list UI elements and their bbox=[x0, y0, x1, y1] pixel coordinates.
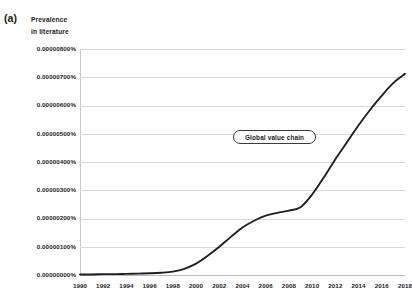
y-tick-label-7: 0.00000700% bbox=[37, 74, 76, 80]
x-tick-label-3: 1996 bbox=[143, 283, 157, 289]
x-tick-label-2: 1994 bbox=[119, 283, 133, 289]
x-tick-label-4: 1998 bbox=[166, 283, 180, 289]
y-tick-label-1: 0.00000100% bbox=[37, 244, 76, 250]
y-tick-label-5: 0.00000500% bbox=[37, 131, 76, 137]
x-tick-label-10: 2010 bbox=[305, 283, 319, 289]
series-line-global-value-chain bbox=[80, 74, 405, 275]
y-tick-label-0: 0.00000000% bbox=[37, 272, 76, 278]
plot-area bbox=[80, 49, 405, 275]
x-tick-label-7: 2004 bbox=[235, 283, 249, 289]
x-tick-label-8: 2006 bbox=[259, 283, 273, 289]
y-axis-tick-labels: 0.00000000%0.00000100%0.00000200%0.00000… bbox=[0, 0, 76, 301]
x-tick-label-6: 2002 bbox=[212, 283, 226, 289]
annotation-global-value-chain: Global value chain bbox=[233, 130, 316, 144]
figure-panel-a: (a) Prevalence in literature 0.00000000%… bbox=[0, 0, 412, 301]
x-tick-label-5: 2000 bbox=[189, 283, 203, 289]
y-tick-label-4: 0.00000400% bbox=[37, 159, 76, 165]
y-tick-label-6: 0.00000600% bbox=[37, 102, 76, 108]
y-tick-label-3: 0.00000300% bbox=[37, 187, 76, 193]
x-axis-tick-labels: 1990199219941996199820002002200420062008… bbox=[80, 283, 405, 295]
x-tick-label-9: 2008 bbox=[282, 283, 296, 289]
x-tick-label-11: 2012 bbox=[328, 283, 342, 289]
x-tick-label-12: 2014 bbox=[351, 283, 365, 289]
x-tick-label-1: 1992 bbox=[96, 283, 110, 289]
gridline-y-0 bbox=[80, 275, 405, 276]
series-canvas bbox=[80, 49, 405, 275]
y-tick-label-8: 0.00000800% bbox=[37, 46, 76, 52]
clipped-header-remnant bbox=[100, 0, 400, 4]
x-tick-label-0: 1990 bbox=[73, 283, 87, 289]
y-tick-label-2: 0.00000200% bbox=[37, 215, 76, 221]
x-tick-label-14: 2018 bbox=[398, 283, 412, 289]
x-tick-label-13: 2016 bbox=[375, 283, 389, 289]
